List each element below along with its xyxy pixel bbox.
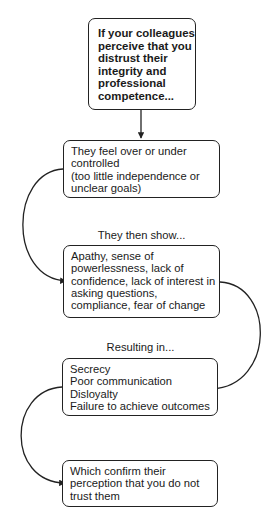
edge-label-result: Resulting in... — [62, 341, 219, 353]
node-text: unclear goals) — [71, 182, 212, 194]
node-text: (too little independence or — [71, 170, 212, 182]
node-feel: They feel over or under controlled (too … — [63, 140, 220, 198]
node-text: Disloyalty — [70, 388, 210, 400]
node-text: They feel over or under — [71, 145, 212, 157]
arrow-feel-to-show — [23, 169, 66, 281]
node-text: controlled — [71, 157, 212, 169]
node-text: perceive that you — [98, 40, 186, 53]
node-text: Apathy, sense of — [71, 250, 212, 262]
node-text: confidence, lack of interest in — [71, 275, 212, 287]
edge-label-show: They then show... — [63, 229, 220, 241]
node-text: integrity and — [98, 65, 186, 78]
node-show: Apathy, sense of powerlessness, lack of … — [63, 245, 220, 318]
node-text: If your colleagues — [98, 27, 186, 40]
node-text: compliance, fear of change — [71, 299, 212, 311]
node-text: competence... — [98, 90, 186, 103]
node-text: Poor communication — [70, 375, 210, 387]
node-text: professional — [98, 77, 186, 90]
node-text: Secrecy — [70, 363, 210, 375]
node-text: asking questions, — [71, 287, 212, 299]
node-perception: If your colleagues perceive that you dis… — [88, 18, 196, 110]
node-text: Which confirm their — [70, 465, 210, 477]
arrow-result-to-confirm — [21, 387, 65, 483]
node-result: Secrecy Poor communication Disloyalty Fa… — [62, 358, 218, 416]
node-text: trust them — [70, 490, 210, 502]
node-confirm: Which confirm their perception that you … — [62, 460, 218, 507]
node-text: powerlessness, lack of — [71, 262, 212, 274]
node-text: Failure to achieve outcomes — [70, 400, 210, 412]
node-text: perception that you do not — [70, 477, 210, 489]
node-text: distrust their — [98, 52, 186, 65]
